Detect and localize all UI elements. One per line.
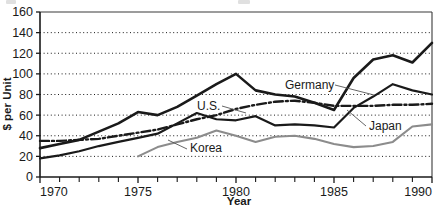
y-tick-label-40: 40 xyxy=(19,129,33,143)
y-tick-label-160: 160 xyxy=(12,5,33,19)
series-label-us: U.S. xyxy=(197,99,220,113)
y-tick-label-60: 60 xyxy=(19,109,33,123)
scan-artifact xyxy=(0,0,447,7)
leader-line-japan xyxy=(347,110,366,126)
x-tick-label-1985: 1985 xyxy=(320,185,348,199)
chart-canvas: 020406080100120140160 197019751980198519… xyxy=(0,0,447,209)
x-tick-label-1970: 1970 xyxy=(40,185,68,199)
y-tick-label-0: 0 xyxy=(26,170,33,184)
x-tick-label-1975: 1975 xyxy=(124,185,152,199)
line-chart: 020406080100120140160 197019751980198519… xyxy=(0,0,447,209)
y-tick-label-80: 80 xyxy=(19,88,33,102)
series-label-germany: Germany xyxy=(285,78,334,92)
y-axis-tick-labels: 020406080100120140160 xyxy=(12,5,33,184)
series-label-japan: Japan xyxy=(369,119,402,133)
x-axis-title: Year xyxy=(227,195,252,207)
leader-line-germany xyxy=(335,85,374,95)
y-tick-label-120: 120 xyxy=(12,47,33,61)
y-tick-label-20: 20 xyxy=(19,150,33,164)
scan-artifact-center xyxy=(238,0,250,4)
series-label-korea: Korea xyxy=(190,141,222,155)
x-tick-label-1990: 1990 xyxy=(404,185,432,199)
y-tick-label-100: 100 xyxy=(12,67,33,81)
x-axis-ticks xyxy=(40,177,432,183)
data-series-layer xyxy=(40,43,432,159)
y-tick-label-140: 140 xyxy=(12,26,33,40)
y-axis-title: $ per Unit xyxy=(1,77,13,130)
scan-artifact-left xyxy=(6,0,16,4)
